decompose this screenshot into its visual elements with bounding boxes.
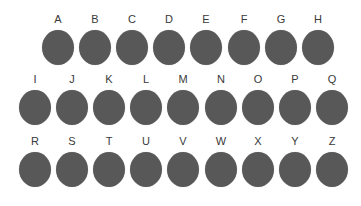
- letter-circle-button[interactable]: [228, 30, 260, 65]
- letter-circle-button[interactable]: [116, 30, 148, 65]
- letter-circle-button[interactable]: [265, 30, 297, 65]
- letter-label: S: [56, 135, 88, 147]
- letter-circle-button[interactable]: [19, 90, 51, 125]
- letter-circle-button[interactable]: [242, 152, 274, 187]
- letter-item-m: M: [167, 73, 199, 133]
- letter-label: F: [228, 13, 260, 25]
- letter-label: K: [93, 73, 125, 85]
- letter-label: N: [205, 73, 237, 85]
- letter-label: O: [242, 73, 274, 85]
- letter-label: G: [265, 13, 297, 25]
- letter-item-g: G: [265, 13, 297, 73]
- letter-item-y: Y: [279, 135, 311, 195]
- letter-item-s: S: [56, 135, 88, 195]
- letter-label: T: [93, 135, 125, 147]
- letter-item-a: A: [42, 13, 74, 73]
- letter-item-z: Z: [316, 135, 348, 195]
- letter-label: V: [167, 135, 199, 147]
- letter-circle-button[interactable]: [242, 90, 274, 125]
- letter-label: Z: [316, 135, 348, 147]
- letter-circle-button[interactable]: [42, 30, 74, 65]
- letter-item-u: U: [130, 135, 162, 195]
- letter-item-t: T: [93, 135, 125, 195]
- letter-item-l: L: [130, 73, 162, 133]
- letter-item-w: W: [205, 135, 237, 195]
- letter-circle-button[interactable]: [302, 30, 334, 65]
- letter-label: P: [279, 73, 311, 85]
- letter-circle-button[interactable]: [167, 152, 199, 187]
- letter-item-r: R: [19, 135, 51, 195]
- letter-item-o: O: [242, 73, 274, 133]
- letter-label: R: [19, 135, 51, 147]
- letter-item-k: K: [93, 73, 125, 133]
- letter-label: J: [56, 73, 88, 85]
- row-2: IJKLMNOPQ: [0, 73, 361, 133]
- letter-circle-button[interactable]: [56, 90, 88, 125]
- letter-label: W: [205, 135, 237, 147]
- letter-circle-button[interactable]: [316, 90, 348, 125]
- letter-circle-button[interactable]: [190, 30, 222, 65]
- letter-item-i: I: [19, 73, 51, 133]
- letter-label: L: [130, 73, 162, 85]
- row-1: ABCDEFGH: [0, 13, 361, 73]
- letter-item-h: H: [302, 13, 334, 73]
- letter-circle-button[interactable]: [130, 152, 162, 187]
- letter-item-q: Q: [316, 73, 348, 133]
- letter-label: Y: [279, 135, 311, 147]
- letter-label: D: [153, 13, 185, 25]
- letter-label: C: [116, 13, 148, 25]
- letter-item-c: C: [116, 13, 148, 73]
- letter-item-j: J: [56, 73, 88, 133]
- letter-item-b: B: [79, 13, 111, 73]
- letter-item-p: P: [279, 73, 311, 133]
- letter-item-e: E: [190, 13, 222, 73]
- letter-item-x: X: [242, 135, 274, 195]
- letter-item-v: V: [167, 135, 199, 195]
- letter-circle-button[interactable]: [316, 152, 348, 187]
- letter-circle-button[interactable]: [167, 90, 199, 125]
- letter-circle-button[interactable]: [93, 90, 125, 125]
- letter-circle-button[interactable]: [205, 90, 237, 125]
- letter-circle-button[interactable]: [19, 152, 51, 187]
- letter-circle-button[interactable]: [93, 152, 125, 187]
- letter-label: A: [42, 13, 74, 25]
- letter-circle-button[interactable]: [279, 90, 311, 125]
- letter-label: M: [167, 73, 199, 85]
- letter-circle-button[interactable]: [130, 90, 162, 125]
- letter-circle-button[interactable]: [56, 152, 88, 187]
- letter-label: Q: [316, 73, 348, 85]
- letter-circle-button[interactable]: [205, 152, 237, 187]
- letter-label: I: [19, 73, 51, 85]
- letter-label: E: [190, 13, 222, 25]
- letter-label: B: [79, 13, 111, 25]
- letter-item-n: N: [205, 73, 237, 133]
- letter-label: X: [242, 135, 274, 147]
- letter-label: H: [302, 13, 334, 25]
- letter-circle-button[interactable]: [279, 152, 311, 187]
- letter-circle-button[interactable]: [153, 30, 185, 65]
- letter-item-d: D: [153, 13, 185, 73]
- row-3: RSTUVWXYZ: [0, 135, 361, 195]
- letter-circle-button[interactable]: [79, 30, 111, 65]
- letter-label: U: [130, 135, 162, 147]
- letter-item-f: F: [228, 13, 260, 73]
